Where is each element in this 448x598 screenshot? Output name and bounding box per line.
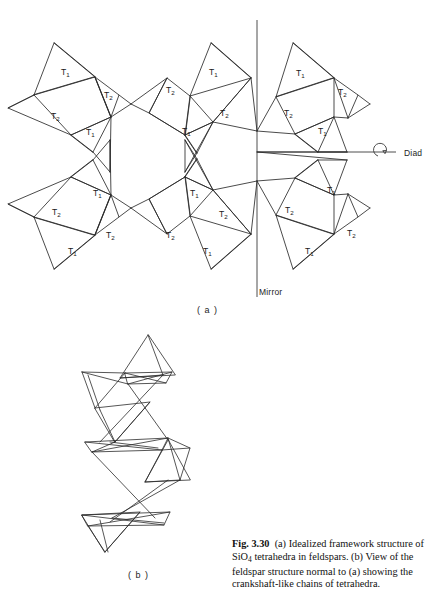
label-t1: T1 [182,126,191,137]
label-t1: T1 [209,67,218,78]
label-t1: T1 [327,185,336,196]
tetrahedra-cluster-upper-middle [131,43,257,172]
label-t1: T1 [296,68,305,79]
panel-b-crankshaft-chain-diagram [40,330,220,560]
label-t2: T2 [347,228,356,239]
label-t2: T2 [51,111,60,122]
label-t2: T2 [104,90,113,101]
diad-axis-label: Diad [404,148,422,158]
t-site-labels: T1 T2 T2 T1 T1 T2 T2 T1 T1 T2 T2 T1 T1 T… [51,67,356,257]
panel-a-framework-diagram: T1 T2 T2 T1 T1 T2 T2 T1 T1 T2 T2 T1 T1 T… [0,0,448,330]
label-t1: T1 [190,188,199,199]
diad-rotation-arrow-icon [374,143,387,156]
panel-a-label: ( a ) [197,305,218,315]
label-t2: T2 [219,209,228,220]
label-t1: T1 [203,246,212,257]
label-t1: T1 [68,246,77,257]
label-t2: T2 [166,230,175,241]
label-t1: T1 [318,126,327,137]
eight-membered-ring-channel [110,140,185,172]
figure-number: Fig. 3.30 [232,538,269,549]
crankshaft-chain-unit-1 [82,335,175,410]
crankshaft-chain-unit-2 [85,375,190,480]
label-t2: T2 [106,230,115,241]
label-t1: T1 [61,67,70,78]
panel-b-label: ( b ) [128,570,149,580]
label-t2: T2 [285,205,294,216]
label-t1: T1 [86,127,95,138]
crankshaft-chain-unit-3 [82,440,190,552]
tetrahedra-cluster-lower-middle [131,140,257,269]
figure-caption: Fig. 3.30 (a) Idealized framework struct… [232,538,444,591]
tetrahedra-cluster-upper-right [257,43,370,152]
label-t2: T2 [52,207,61,218]
label-t1: T1 [305,246,314,257]
figure-page: T1 T2 T2 T1 T1 T2 T2 T1 T1 T2 T2 T1 T1 T… [0,0,448,598]
label-t2: T2 [220,108,229,119]
label-t1: T1 [93,188,102,199]
caption-part-b: tetrahedra in feldspars. (b) View of the… [232,551,413,590]
mirror-plane-label: Mirror [259,287,282,297]
tetrahedra-cluster-upper-left [8,43,131,172]
label-t2: T2 [284,108,293,119]
label-t2: T2 [166,85,175,96]
label-t2: T2 [338,87,347,98]
